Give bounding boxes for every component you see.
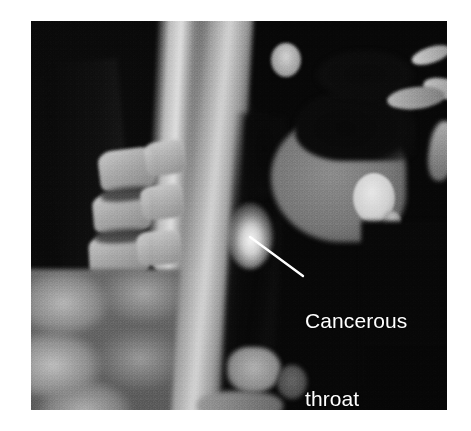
- maxilla-bone: [425, 119, 447, 182]
- page-root: Cancerous throat tissue: [0, 0, 471, 431]
- lesion-callout-label: Cancerous throat tissue: [305, 256, 407, 410]
- posterior-element-3: [136, 230, 182, 267]
- nasal-bone-superior: [410, 41, 447, 69]
- hyoid-structure: [277, 365, 307, 399]
- posterior-element-2: [139, 183, 184, 221]
- cancerous-lesion-highlight: [227, 203, 273, 269]
- larynx-structure: [227, 347, 281, 393]
- sphenoid-bone: [271, 43, 301, 77]
- scan-figure: Cancerous throat tissue: [31, 21, 447, 410]
- callout-line-1: Cancerous: [305, 308, 407, 334]
- scan-image: Cancerous throat tissue: [31, 21, 447, 410]
- posterior-element-1: [143, 138, 187, 177]
- callout-line-2: throat: [305, 386, 407, 410]
- lower-neck-soft-tissue: [197, 391, 283, 410]
